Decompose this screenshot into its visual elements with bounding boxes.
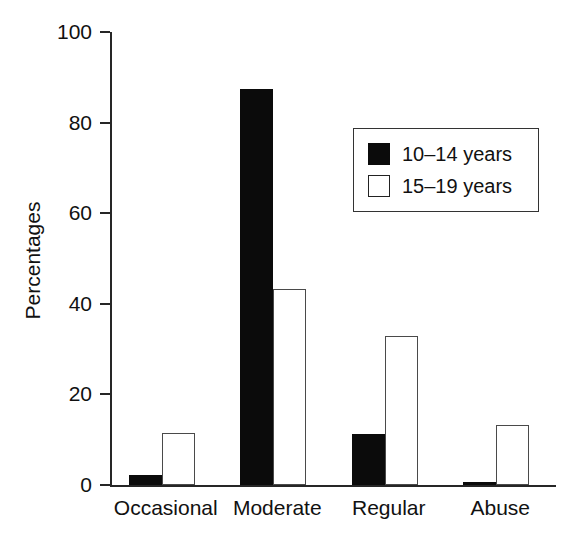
y-axis-tick [100, 31, 110, 33]
y-axis-tick [100, 303, 110, 305]
bar-chart: Percentages 020406080100 OccasionalModer… [0, 0, 570, 544]
bar-abuse-series-1 [463, 482, 496, 485]
y-axis-tick-label: 60 [32, 202, 92, 223]
y-axis-tick [100, 212, 110, 214]
y-axis-title: Percentages [22, 151, 43, 371]
bar-moderate-series-2 [273, 289, 306, 485]
legend-label-series-2: 15–19 years [402, 176, 512, 196]
y-axis-tick-label: 40 [32, 293, 92, 314]
y-axis-tick [100, 393, 110, 395]
legend-item-series-1: 10–14 years [368, 138, 538, 170]
y-axis-tick-label: 20 [32, 383, 92, 404]
x-axis-tick-label-abuse: Abuse [431, 495, 570, 521]
legend-label-series-1: 10–14 years [402, 144, 512, 164]
x-axis-line [110, 485, 556, 487]
bar-abuse-series-2 [496, 425, 529, 485]
legend-swatch-icon-series-2 [368, 175, 390, 197]
bar-occasional-series-1 [129, 475, 162, 485]
y-axis-tick-label: 100 [32, 21, 92, 42]
legend-item-series-2: 15–19 years [368, 170, 538, 202]
legend-swatch-icon-series-1 [368, 143, 390, 165]
plot-area [110, 32, 556, 485]
bar-regular-series-1 [352, 434, 385, 485]
legend: 10–14 years 15–19 years [353, 128, 539, 212]
y-axis-tick-label: 80 [32, 112, 92, 133]
bar-moderate-series-1 [240, 89, 273, 485]
y-axis-tick [100, 484, 110, 486]
x-axis-tick-labels: OccasionalModerateRegularAbuse [110, 495, 560, 525]
y-axis-tick-label: 0 [32, 474, 92, 495]
bar-regular-series-2 [385, 336, 418, 485]
y-axis-tick [100, 122, 110, 124]
bar-occasional-series-2 [162, 433, 195, 485]
